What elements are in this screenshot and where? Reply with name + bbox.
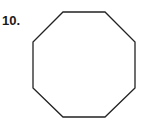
octagon-figure <box>0 0 149 128</box>
octagon-shape <box>33 12 135 117</box>
